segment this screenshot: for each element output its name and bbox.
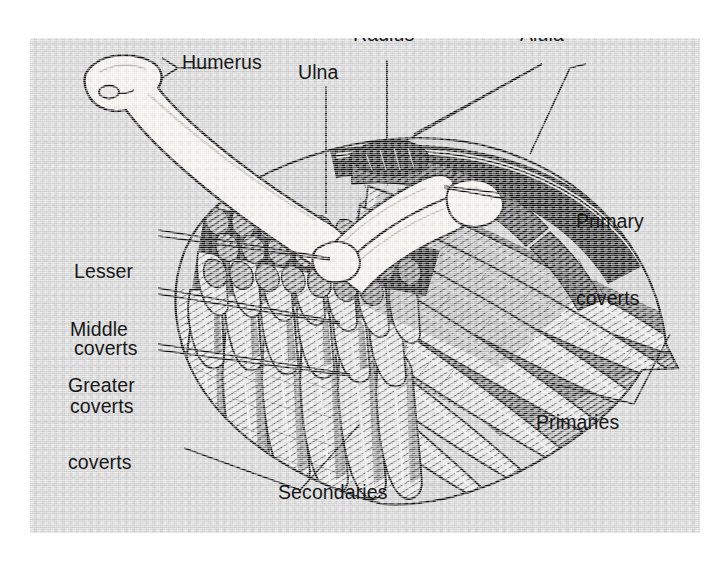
- leader-alula: [530, 38, 700, 154]
- figure-canvas: Humerus Radius Ulna Alula Primary covert…: [0, 0, 727, 561]
- label-primary-coverts-line1: Primary: [576, 209, 644, 235]
- label-humerus: Humerus: [182, 50, 262, 75]
- label-ulna: Ulna: [298, 60, 339, 85]
- elbow-joint: [312, 242, 360, 282]
- label-greater-coverts-line2: coverts: [68, 450, 135, 476]
- label-greater-coverts: Greater coverts: [68, 322, 135, 526]
- label-alula: Alula: [520, 38, 564, 47]
- label-greater-coverts-line1: Greater: [68, 373, 135, 399]
- label-radius: Radius: [353, 38, 414, 47]
- label-primary-coverts: Primary coverts: [576, 158, 644, 362]
- label-primary-coverts-line2: coverts: [576, 286, 644, 312]
- label-secondaries: Secondaries: [278, 480, 388, 505]
- illustration-plate: Humerus Radius Ulna Alula Primary covert…: [30, 38, 700, 533]
- label-primaries: Primaries: [536, 410, 619, 435]
- leader-alula-arms: [386, 64, 542, 152]
